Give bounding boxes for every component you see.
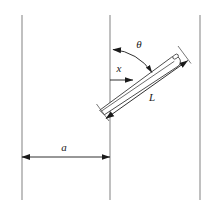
length-label: L bbox=[148, 91, 155, 103]
line-spacing-group: a bbox=[22, 141, 110, 157]
needle-shaft-line bbox=[102, 62, 174, 112]
angle-label: θ bbox=[136, 38, 142, 50]
needle-group bbox=[100, 53, 180, 114]
distance-x-group: x bbox=[110, 62, 133, 80]
buffon-needle-diagram: θ x L a bbox=[0, 0, 219, 214]
a-label: a bbox=[61, 141, 67, 153]
figure-canvas: θ x L a bbox=[0, 0, 219, 214]
x-label: x bbox=[116, 62, 122, 74]
